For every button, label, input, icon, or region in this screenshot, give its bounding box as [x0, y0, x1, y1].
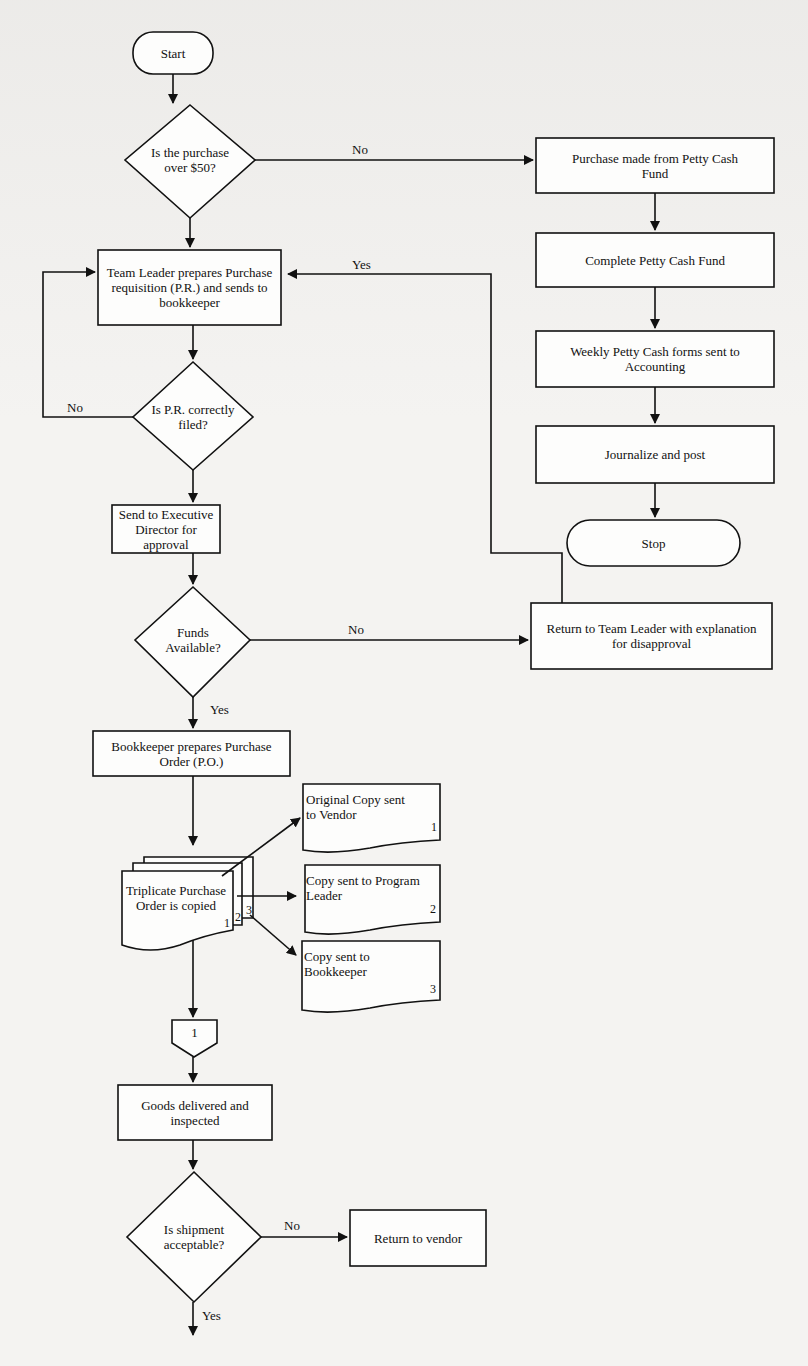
shipment-yes-label: Yes [202, 1308, 221, 1324]
flowchart-shapes [0, 0, 808, 1366]
weekly-forms-label: Weekly Petty Cash forms sent to Accounti… [560, 333, 750, 385]
funds-question: Funds Available? [150, 620, 236, 660]
bookkeeper-po-label: Bookkeeper prepares Purchase Order (P.O.… [95, 733, 288, 774]
pr-filed-question: Is P.R. correctly filed? [150, 392, 236, 442]
program-leader-copy-number: 2 [430, 902, 436, 917]
over50-question: Is the purchase over $50? [140, 135, 240, 185]
vendor-copy-number: 1 [431, 820, 437, 835]
bookkeeper-copy-number: 3 [430, 982, 436, 997]
funds-no-label: No [348, 622, 364, 638]
connector-label: 1 [172, 1020, 217, 1044]
petty-purchase-label: Purchase made from Petty Cash Fund [560, 140, 750, 191]
start-label: Start [133, 32, 213, 74]
vendor-copy-label: Original Copy sent to Vendor [306, 786, 416, 828]
return-vendor-label: Return to vendor [352, 1212, 484, 1264]
pr-no-label: No [67, 400, 83, 416]
funds-yes-label: Yes [210, 702, 229, 718]
goods-delivered-label: Goods delivered and inspected [120, 1087, 270, 1138]
send-exec-label: Send to Executive Director for approval [114, 507, 218, 551]
team-leader-pr-label: Team Leader prepares Purchase requisitio… [100, 252, 279, 323]
over50-no-label: No [352, 142, 368, 158]
copy-number-3: 3 [246, 903, 252, 918]
journalize-label: Journalize and post [538, 428, 772, 481]
copy-number-1: 1 [224, 916, 230, 931]
return-team-leader-label: Return to Team Leader with explanation f… [545, 605, 758, 667]
copy-number-2: 2 [235, 910, 241, 925]
program-leader-copy-label: Copy sent to Program Leader [306, 867, 426, 909]
shipment-no-label: No [284, 1218, 300, 1234]
return-yes-label: Yes [352, 257, 371, 273]
triplicate-label: Triplicate Purchase Order is copied [122, 873, 230, 923]
bookkeeper-copy-label: Copy sent to Bookkeeper [304, 943, 424, 985]
complete-petty-label: Complete Petty Cash Fund [538, 235, 772, 285]
stop-label: Stop [567, 520, 740, 566]
shipment-question: Is shipment acceptable? [148, 1215, 240, 1259]
